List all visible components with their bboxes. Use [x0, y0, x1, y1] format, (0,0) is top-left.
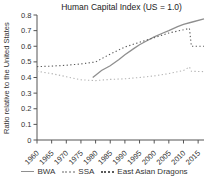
svg-text:0.4: 0.4 — [21, 73, 31, 82]
ssa-line-icon — [62, 171, 75, 173]
svg-text:1960: 1960 — [23, 149, 41, 167]
legend-item-ssa: SSA — [62, 167, 94, 176]
legend-item-east-asian-dragons: East Asian Dragons — [101, 167, 187, 176]
svg-text:1985: 1985 — [96, 149, 114, 167]
legend-label-ssa: SSA — [78, 167, 94, 176]
svg-text:1975: 1975 — [67, 149, 85, 167]
svg-text:0.8: 0.8 — [21, 11, 31, 20]
svg-text:2000: 2000 — [140, 149, 158, 167]
east-asian-dragons-line-icon — [101, 171, 114, 173]
bwa-line-icon — [21, 171, 34, 172]
svg-text:2005: 2005 — [155, 149, 173, 167]
svg-text:0.6: 0.6 — [21, 42, 31, 51]
svg-text:0.5: 0.5 — [21, 57, 31, 66]
svg-text:1965: 1965 — [37, 149, 55, 167]
legend-label-bwa: BWA — [37, 167, 55, 176]
svg-text:0.3: 0.3 — [21, 89, 31, 98]
svg-text:2010: 2010 — [169, 149, 187, 167]
legend: BWA SSA East Asian Dragons — [0, 167, 209, 176]
svg-text:0.1: 0.1 — [21, 120, 31, 129]
svg-text:1995: 1995 — [125, 149, 143, 167]
legend-label-east-asian-dragons: East Asian Dragons — [117, 167, 187, 176]
svg-text:1970: 1970 — [52, 149, 70, 167]
svg-text:0: 0 — [27, 136, 31, 145]
legend-item-bwa: BWA — [21, 167, 55, 176]
svg-text:1980: 1980 — [81, 149, 99, 167]
chart-canvas: 00.10.20.30.40.50.60.70.8196019651970197… — [0, 0, 209, 187]
svg-text:0.7: 0.7 — [21, 26, 31, 35]
human-capital-chart: Human Capital Index (US = 1.0) Ratio rel… — [0, 0, 209, 187]
svg-text:0.2: 0.2 — [21, 104, 31, 113]
svg-text:2015: 2015 — [184, 149, 202, 167]
svg-text:1990: 1990 — [111, 149, 129, 167]
